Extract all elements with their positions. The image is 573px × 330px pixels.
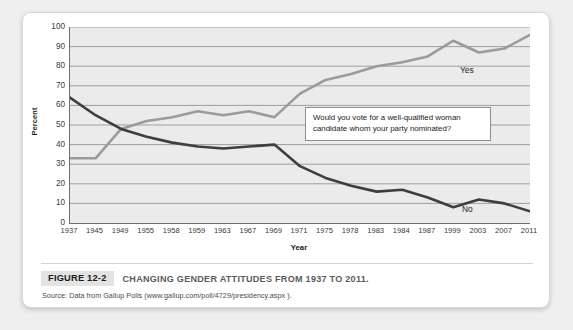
x-tick-label: 1971 xyxy=(288,227,310,235)
series-label-yes: Yes xyxy=(460,65,474,75)
x-tick-label: 2003 xyxy=(467,227,489,235)
x-tick-label: 1984 xyxy=(390,227,412,235)
chart-container: Percent 0102030405060708090100 193719451… xyxy=(23,13,550,261)
x-tick-label: 2011 xyxy=(518,227,540,235)
figure-page: Percent 0102030405060708090100 193719451… xyxy=(0,0,573,330)
x-tick-label: 1945 xyxy=(84,227,106,235)
x-tick-label: 2007 xyxy=(492,227,514,235)
y-tick-label: 70 xyxy=(39,82,65,90)
y-tick-label: 100 xyxy=(39,23,65,31)
x-tick-label: 1999 xyxy=(441,227,463,235)
x-axis-tick-labels: 1937194519491955195819591963196719691971… xyxy=(69,227,531,241)
y-tick-label: 10 xyxy=(39,199,65,207)
x-tick-label: 1955 xyxy=(135,227,157,235)
y-tick-label: 60 xyxy=(39,101,65,109)
y-tick-label: 20 xyxy=(39,180,65,188)
figure-title: CHANGING GENDER ATTITUDES FROM 1937 TO 2… xyxy=(123,274,369,284)
x-tick-label: 1967 xyxy=(237,227,259,235)
figure-number-badge: FIGURE 12-2 xyxy=(41,271,114,286)
figure-source: Source: Data from Gallup Polls (www.gall… xyxy=(42,291,292,300)
x-tick-label: 1937 xyxy=(58,227,80,235)
y-tick-label: 50 xyxy=(39,121,65,129)
x-tick-label: 1949 xyxy=(109,227,131,235)
x-tick-label: 1987 xyxy=(416,227,438,235)
x-tick-label: 1969 xyxy=(262,227,284,235)
x-tick-label: 1963 xyxy=(211,227,233,235)
figure-card: Percent 0102030405060708090100 193719451… xyxy=(22,12,550,308)
chart-annotation-callout: Would you vote for a well-qualified woma… xyxy=(305,107,491,141)
x-tick-label: 1978 xyxy=(339,227,361,235)
y-tick-label: 30 xyxy=(39,160,65,168)
y-tick-label: 40 xyxy=(39,141,65,149)
x-tick-label: 1958 xyxy=(160,227,182,235)
x-tick-label: 1959 xyxy=(186,227,208,235)
y-axis-tick-labels: 0102030405060708090100 xyxy=(37,13,65,261)
y-tick-label: 80 xyxy=(39,62,65,70)
y-tick-label: 90 xyxy=(39,43,65,51)
series-label-no: No xyxy=(462,204,473,214)
x-axis-title: Year xyxy=(69,243,529,252)
x-tick-label: 1975 xyxy=(314,227,336,235)
caption-divider xyxy=(41,263,533,264)
x-tick-label: 1983 xyxy=(365,227,387,235)
figure-caption: FIGURE 12-2 CHANGING GENDER ATTITUDES FR… xyxy=(41,271,369,286)
